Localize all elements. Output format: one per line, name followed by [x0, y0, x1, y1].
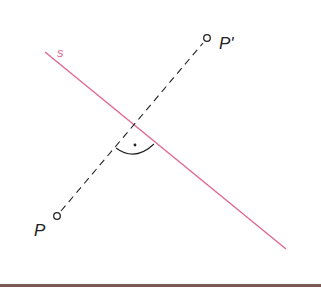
point-p-prime-label: P': [219, 34, 234, 53]
mirror-line-s: [45, 52, 286, 249]
right-angle-dot: [134, 144, 137, 147]
mirror-line-label: s: [57, 45, 64, 60]
reflection-diagram: s P P': [0, 0, 321, 288]
point-p-marker: [54, 213, 61, 220]
point-p-prime-marker: [204, 35, 211, 42]
bottom-rule: [0, 284, 321, 287]
perpendicular-dashed-line: [61, 43, 203, 211]
point-p-label: P: [34, 221, 46, 240]
